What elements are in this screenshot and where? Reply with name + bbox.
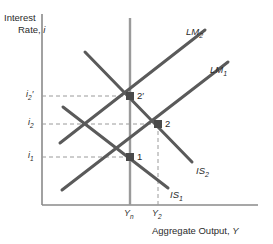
- point-label-1: 1: [137, 152, 142, 162]
- y-axis-title: Interest Rate, i: [4, 12, 45, 35]
- figure-canvas: [0, 0, 273, 244]
- point-marker-1: [126, 153, 134, 161]
- curve-label-IS1: IS1: [170, 190, 183, 202]
- y-axis-symbol: i: [43, 24, 45, 35]
- is-lm-figure: Interest Rate, i Aggregate Output, Y i2′…: [0, 0, 273, 244]
- point-marker-2prime: [126, 92, 134, 100]
- x-tick-label-Y2: Y2: [152, 209, 162, 220]
- x-axis-title-text: Aggregate Output,: [152, 225, 230, 236]
- y-tick-label-i2prime: i2′: [26, 90, 33, 101]
- curve-label-LM1: LM1: [210, 65, 227, 77]
- x-tick-label-Yn: Yn: [124, 209, 134, 220]
- curve-label-IS2: IS2: [196, 166, 209, 178]
- point-marker-2: [154, 120, 162, 128]
- y-tick-label-i1: i1: [28, 151, 34, 162]
- point-label-2prime: 2′: [137, 91, 144, 101]
- x-axis-symbol: Y: [232, 225, 238, 236]
- y-axis-title-line2: Rate,: [18, 24, 41, 35]
- curve-LM2: [60, 30, 205, 143]
- curve-IS2: [85, 52, 192, 162]
- point-label-2: 2: [165, 119, 170, 129]
- y-axis-title-line1: Interest: [4, 12, 36, 23]
- curve-label-LM2: LM2: [186, 27, 203, 39]
- y-tick-label-i2: i2: [28, 118, 34, 129]
- x-axis-title: Aggregate Output, Y: [152, 226, 239, 236]
